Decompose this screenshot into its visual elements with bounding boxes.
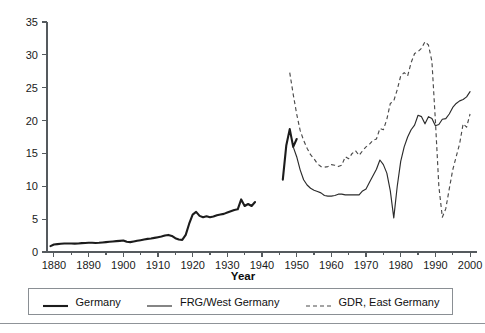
legend-line-sample	[42, 297, 69, 307]
series-line	[293, 92, 470, 218]
x-tick-label: 1990	[423, 259, 447, 271]
y-tick-label: 25	[26, 82, 38, 94]
legend-label: GDR, East Germany	[339, 296, 440, 308]
x-tick-label: 1960	[319, 259, 343, 271]
legend-item: GDR, East Germany	[303, 296, 442, 308]
series-line	[50, 129, 296, 246]
chart-legend: GermanyFRG/West GermanyGDR, East Germany	[28, 288, 453, 315]
chart-series-group	[50, 42, 470, 246]
y-tick-label: 0	[32, 246, 38, 258]
x-tick-label: 2000	[458, 259, 482, 271]
legend-label: FRG/West Germany	[180, 296, 279, 308]
x-axis: 1880189019001910192019301940195019601970…	[42, 252, 483, 271]
legend-item: Germany	[40, 296, 123, 308]
x-tick-label: 1970	[354, 259, 378, 271]
legend-line-sample	[305, 297, 332, 307]
y-tick-label: 15	[26, 147, 38, 159]
x-tick-label: 1950	[284, 259, 308, 271]
x-tick-label: 1890	[76, 259, 100, 271]
y-tick-label: 35	[26, 16, 38, 28]
y-tick-label: 10	[26, 180, 38, 192]
x-tick-label: 1880	[42, 259, 66, 271]
legend-label: Germany	[76, 296, 121, 308]
x-axis-title: Year	[231, 270, 256, 282]
legend-line-sample	[146, 297, 173, 307]
y-tick-label: 5	[32, 213, 38, 225]
line-chart: 05101520253035 1880189019001910192019301…	[0, 0, 485, 290]
chart-figure: 05101520253035 1880189019001910192019301…	[0, 0, 485, 333]
legend-item: FRG/West Germany	[144, 296, 281, 308]
x-tick-label: 1920	[180, 259, 204, 271]
y-tick-label: 20	[26, 115, 38, 127]
x-tick-label: 1910	[146, 259, 170, 271]
x-tick-label: 1900	[111, 259, 135, 271]
x-tick-label: 1980	[388, 259, 412, 271]
y-tick-label: 30	[26, 49, 38, 61]
y-axis: 05101520253035	[26, 16, 47, 258]
footer-divider	[0, 323, 485, 324]
